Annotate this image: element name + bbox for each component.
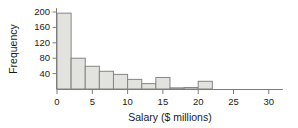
y-axis-title: Frequency [7,24,19,74]
histogram-bar [57,13,71,89]
y-axis-tick-label: 120 [34,38,50,48]
histogram-bar [142,84,156,89]
histogram-bar [128,79,142,89]
x-axis-tick-label: 25 [228,97,239,107]
y-axis-tick-label: 40 [39,69,50,79]
histogram-bar [156,77,170,89]
histogram-bar [184,87,198,89]
x-axis-tick-label: 0 [54,97,59,107]
chart-canvas [0,0,298,128]
x-axis-tick-label: 5 [90,97,95,107]
histogram-bar [85,66,99,89]
histogram-bar [71,58,85,89]
y-axis-tick-label: 80 [39,53,50,63]
histogram-bar [113,74,127,89]
histogram-figure: 4080120160200 051015202530 Frequency Sal… [0,0,298,128]
bars-group [57,13,212,89]
y-axis-tick-label: 160 [34,23,50,33]
x-axis-title: Salary ($ millions) [128,111,211,123]
x-axis-tick-label: 30 [264,97,275,107]
x-axis-tick-label: 10 [122,97,133,107]
x-axis-tick-label: 15 [158,97,169,107]
histogram-bar [99,71,113,89]
x-axis-tick-label: 20 [193,97,204,107]
y-axis-tick-label: 200 [34,7,50,17]
histogram-bar [198,81,212,89]
histogram-bar [170,88,184,89]
